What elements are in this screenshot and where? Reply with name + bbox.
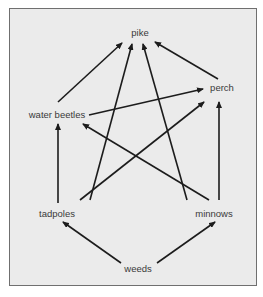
node-pike: pike xyxy=(131,28,148,38)
arrow-weeds-to-tadpoles xyxy=(63,222,121,263)
arrow-minnows-to-pike xyxy=(143,44,187,200)
arrow-minnows-to-water-beetles xyxy=(83,124,209,200)
node-tadpoles: tadpoles xyxy=(39,209,75,219)
arrow-water-beetles-to-perch xyxy=(89,89,203,115)
arrow-water-beetles-to-pike xyxy=(58,43,122,102)
node-minnows: minnows xyxy=(195,209,233,219)
arrow-perch-to-pike xyxy=(155,42,218,79)
arrow-weeds-to-minnows xyxy=(157,222,215,263)
node-weeds: weeds xyxy=(124,264,151,274)
node-perch: perch xyxy=(210,83,234,93)
node-water-beetles: water beetles xyxy=(29,110,86,120)
food-web-arrows xyxy=(0,0,263,297)
